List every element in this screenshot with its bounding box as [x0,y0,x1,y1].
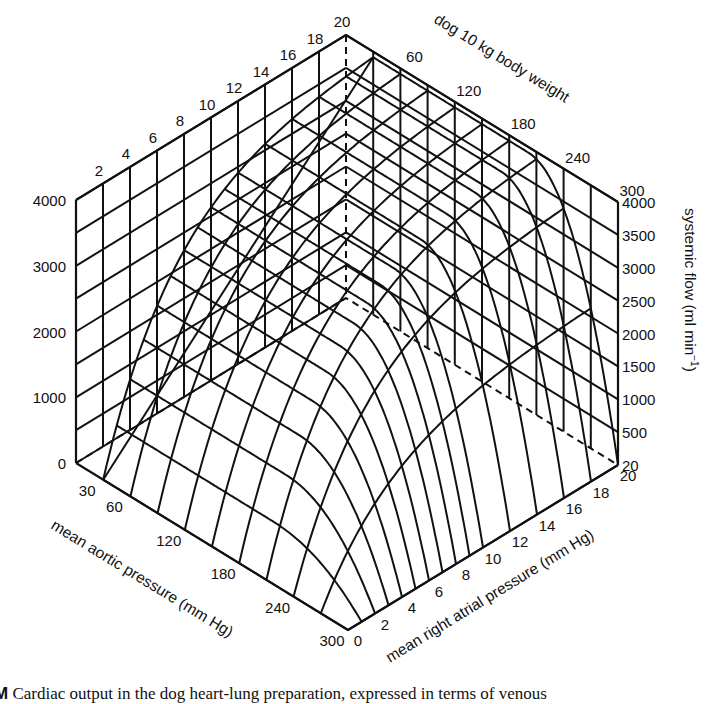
z-tick-right: 1500 [622,358,655,375]
z-tick-right: 500 [622,424,647,441]
y-tick: 16 [566,500,583,517]
rap-top-tick: 6 [149,129,157,146]
y-tick: 18 [593,484,610,501]
x-tick: 120 [156,532,181,549]
y-tick: 20 [620,467,637,484]
rap-top-tick: 12 [226,79,243,96]
rap-top-tick: 10 [199,96,216,113]
z-tick-right: 2500 [622,293,655,310]
rap-top-tick: 18 [307,30,324,47]
z-tick-left: 0 [58,455,66,472]
x-axis-label: mean aortic pressure (mm Hg) [48,516,236,640]
rap-top-tick: 4 [122,145,130,162]
rap-top-tick: 20 [334,13,351,30]
aortic-top-tick: 60 [406,48,423,65]
rap-top-tick: 14 [253,63,270,80]
caption-text: Cardiac output in the dog heart-lung pre… [8,684,547,703]
iso-rap-line [346,77,591,482]
iso-rap-line [103,480,348,630]
rap-top-tick: 8 [176,112,184,129]
z-tick-left: 3000 [33,258,66,275]
rap-top-tick: 2 [95,162,103,179]
iso-rap-line [373,57,618,465]
y-tick: 6 [435,583,443,600]
x-tick: 180 [211,565,236,582]
z-axis-label: systemic flow (ml min−1) [682,208,700,372]
iso-rap-line [157,306,402,597]
y-tick: 12 [512,533,529,550]
iso-rap-line [130,379,375,613]
aortic-top-tick: 240 [565,149,590,166]
figure-caption: M Cardiac output in the dog heart-lung p… [0,684,721,704]
aortic-top-tick: 180 [511,115,536,132]
x-tick: 300 [319,632,344,649]
z-tick-right: 3000 [622,260,655,277]
y-tick: 2 [381,616,389,633]
z-tick-left: 1000 [33,389,66,406]
x-tick: 240 [265,599,290,616]
z-tick-right: 3500 [622,227,655,244]
subtitle-label: dog 10 kg body weight [431,10,573,106]
iso-rap-line [225,189,470,556]
z-tick-right: 2000 [622,326,655,343]
z-tick-left: 2000 [33,324,66,341]
y-tick: 10 [485,550,502,567]
y-axis-label: mean right atrial pressure (mm Hg) [383,525,597,665]
z-tick-right: 1000 [622,391,655,408]
iso-rap-line [211,207,456,564]
y-tick: 0 [354,632,362,649]
iso-rap-line [265,144,510,531]
aortic-top-tick: 300 [619,182,644,199]
aortic-top-tick: 120 [456,82,481,99]
x-tick: 30 [79,482,96,499]
iso-rap-line [184,250,429,580]
z-tick-left: 4000 [33,192,66,209]
x-tick: 60 [106,498,123,515]
y-tick: 8 [462,566,470,583]
y-tick: 4 [408,599,416,616]
caption-lead: M [0,684,8,703]
iso-rap-line [144,340,389,606]
rap-top-tick: 16 [280,46,297,63]
iso-aortic-line [212,124,482,546]
y-tick: 14 [539,517,556,534]
